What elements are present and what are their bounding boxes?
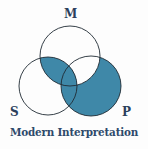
venn-diagram: M S P Modern Interpretation bbox=[0, 0, 148, 149]
label-s: S bbox=[10, 106, 19, 118]
label-m: M bbox=[64, 8, 77, 20]
label-p: P bbox=[122, 106, 131, 118]
caption: Modern Interpretation bbox=[0, 126, 148, 138]
